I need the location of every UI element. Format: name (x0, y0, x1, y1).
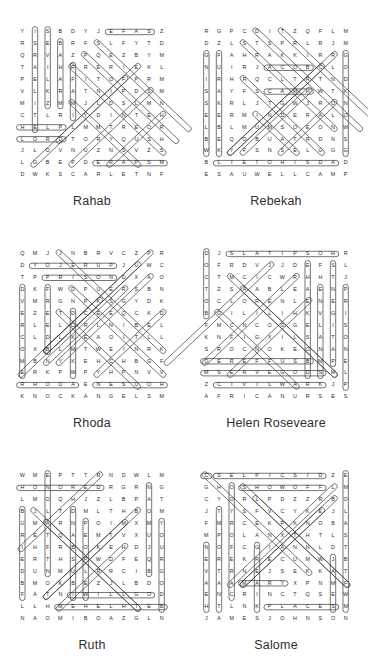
grid-cell[interactable]: P (339, 379, 352, 391)
grid-cell[interactable]: N (263, 530, 276, 542)
grid-cell[interactable]: Y (289, 506, 302, 518)
grid-cell[interactable]: C (117, 248, 130, 260)
grid-cell[interactable]: L (54, 320, 67, 332)
grid-cell[interactable]: Y (92, 367, 105, 379)
grid-cell[interactable]: L (339, 260, 352, 272)
grid-cell[interactable]: E (79, 379, 92, 391)
grid-cell[interactable]: A (238, 284, 251, 296)
grid-cell[interactable]: P (213, 530, 226, 542)
grid-cell[interactable]: S (301, 248, 314, 260)
grid-cell[interactable]: M (29, 248, 42, 260)
grid-cell[interactable]: S (327, 601, 340, 613)
grid-cell[interactable]: M (314, 355, 327, 367)
grid-cell[interactable]: L (263, 308, 276, 320)
grid-cell[interactable]: E (251, 565, 264, 577)
grid-cell[interactable]: E (213, 355, 226, 367)
grid-cell[interactable]: W (79, 589, 92, 601)
grid-cell[interactable]: E (79, 355, 92, 367)
grid-cell[interactable]: G (200, 482, 213, 494)
grid-cell[interactable]: I (67, 109, 80, 121)
grid-cell[interactable]: C (301, 601, 314, 613)
grid-cell[interactable]: X (130, 530, 143, 542)
grid-cell[interactable]: K (41, 169, 54, 181)
grid-cell[interactable]: N (143, 169, 156, 181)
grid-cell[interactable]: P (54, 470, 67, 482)
grid-cell[interactable]: S (29, 38, 42, 50)
grid-cell[interactable]: E (289, 284, 302, 296)
grid-cell[interactable]: T (130, 109, 143, 121)
grid-cell[interactable]: K (276, 50, 289, 62)
grid-cell[interactable]: K (41, 86, 54, 98)
grid-cell[interactable]: S (143, 157, 156, 169)
grid-cell[interactable]: L (327, 482, 340, 494)
grid-cell[interactable]: N (41, 565, 54, 577)
grid-cell[interactable]: H (301, 86, 314, 98)
grid-cell[interactable]: K (339, 86, 352, 98)
grid-cell[interactable]: O (200, 355, 213, 367)
grid-cell[interactable]: I (92, 589, 105, 601)
grid-cell[interactable]: R (314, 494, 327, 506)
grid-cell[interactable]: R (54, 542, 67, 554)
grid-cell[interactable]: C (16, 331, 29, 343)
grid-cell[interactable]: I (79, 74, 92, 86)
grid-cell[interactable]: G (251, 331, 264, 343)
grid-cell[interactable]: T (339, 565, 352, 577)
grid-cell[interactable]: R (54, 518, 67, 530)
grid-cell[interactable]: Q (92, 50, 105, 62)
grid-cell[interactable]: T (16, 62, 29, 74)
grid-cell[interactable]: E (117, 391, 130, 403)
grid-cell[interactable]: M (54, 613, 67, 625)
grid-cell[interactable]: R (16, 38, 29, 50)
grid-cell[interactable]: T (92, 74, 105, 86)
grid-cell[interactable]: J (92, 26, 105, 38)
grid-cell[interactable]: K (314, 379, 327, 391)
grid-cell[interactable]: V (41, 50, 54, 62)
grid-cell[interactable]: X (276, 530, 289, 542)
grid-cell[interactable]: L (16, 601, 29, 613)
grid-cell[interactable]: E (263, 553, 276, 565)
grid-cell[interactable]: R (16, 320, 29, 332)
grid-cell[interactable]: Q (54, 530, 67, 542)
grid-cell[interactable]: O (16, 343, 29, 355)
grid-cell[interactable]: R (29, 50, 42, 62)
grid-cell[interactable]: K (67, 391, 80, 403)
grid-cell[interactable]: E (105, 26, 118, 38)
grid-cell[interactable]: C (200, 494, 213, 506)
grid-cell[interactable]: S (314, 613, 327, 625)
grid-cell[interactable]: Y (276, 577, 289, 589)
grid-cell[interactable]: N (276, 391, 289, 403)
grid-cell[interactable]: T (263, 248, 276, 260)
grid-cell[interactable]: L (41, 109, 54, 121)
grid-cell[interactable]: L (225, 121, 238, 133)
grid-cell[interactable]: L (105, 169, 118, 181)
grid-cell[interactable]: E (54, 157, 67, 169)
grid-cell[interactable]: O (225, 494, 238, 506)
grid-cell[interactable]: O (41, 577, 54, 589)
grid-cell[interactable]: O (289, 121, 302, 133)
grid-cell[interactable]: E (130, 62, 143, 74)
grid-cell[interactable]: J (200, 506, 213, 518)
grid-cell[interactable]: G (276, 98, 289, 110)
grid-cell[interactable]: C (238, 343, 251, 355)
grid-cell[interactable]: E (314, 506, 327, 518)
grid-cell[interactable]: U (130, 260, 143, 272)
grid-cell[interactable]: I (301, 50, 314, 62)
grid-cell[interactable]: L (213, 157, 226, 169)
grid-cell[interactable]: F (263, 355, 276, 367)
grid-cell[interactable]: L (54, 331, 67, 343)
grid-cell[interactable]: A (263, 391, 276, 403)
grid-cell[interactable]: A (41, 518, 54, 530)
grid-cell[interactable]: C (238, 518, 251, 530)
grid-cell[interactable]: J (143, 542, 156, 554)
grid-cell[interactable]: O (41, 391, 54, 403)
grid-cell[interactable]: S (130, 284, 143, 296)
grid-cell[interactable]: Z (289, 494, 302, 506)
grid-cell[interactable]: J (339, 272, 352, 284)
grid-cell[interactable]: P (29, 272, 42, 284)
grid-cell[interactable]: B (200, 157, 213, 169)
grid-cell[interactable]: R (301, 391, 314, 403)
grid-cell[interactable]: J (276, 260, 289, 272)
grid-cell[interactable]: T (314, 74, 327, 86)
grid-cell[interactable]: W (92, 343, 105, 355)
grid-cell[interactable]: R (238, 494, 251, 506)
